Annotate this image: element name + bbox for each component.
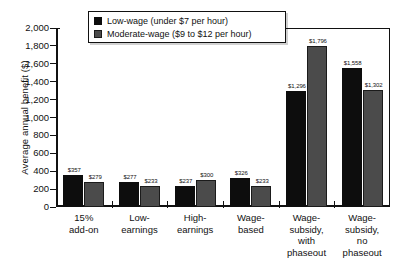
bar-mod-wage bbox=[196, 180, 216, 207]
bar-mod-wage bbox=[363, 90, 383, 207]
y-axis-tick-label: 1,400 bbox=[1, 77, 49, 86]
x-axis-category-line: subsidy, bbox=[279, 224, 335, 236]
y-axis-tick-label: 1,000 bbox=[1, 113, 49, 122]
x-axis-separator-tick bbox=[223, 201, 224, 208]
y-axis-tick-label: 1,600 bbox=[1, 59, 49, 68]
y-axis-tick-label: 1,200 bbox=[1, 95, 49, 104]
x-axis-separator-tick bbox=[112, 201, 113, 208]
bar-low-wage bbox=[63, 175, 83, 207]
x-axis-separator-tick bbox=[279, 201, 280, 208]
x-axis-category-line: subsidy, bbox=[334, 224, 390, 236]
bar-value-label: $300 bbox=[194, 172, 220, 178]
y-axis-tick bbox=[50, 99, 56, 100]
bar-low-wage bbox=[286, 91, 306, 207]
y-axis-tick bbox=[50, 117, 56, 118]
x-axis-category-label: Wage-subsidy,withphaseout bbox=[279, 212, 335, 258]
bar-low-wage bbox=[342, 68, 362, 207]
y-axis-tick bbox=[50, 135, 56, 136]
bar-low-wage bbox=[119, 182, 139, 207]
plot-area bbox=[56, 28, 390, 207]
bar-value-label: $1,558 bbox=[340, 60, 366, 66]
bar-value-label: $326 bbox=[228, 170, 254, 176]
bar-mod-wage bbox=[140, 186, 160, 207]
bar-mod-wage bbox=[251, 186, 271, 207]
x-axis-category-line: Low- bbox=[112, 212, 168, 224]
chart-legend: Low-wage (under $7 per hour) Moderate-wa… bbox=[88, 11, 286, 43]
y-axis-tick-label: 400 bbox=[1, 166, 49, 175]
x-axis-category-line: earnings bbox=[112, 224, 168, 236]
bar-value-label: $357 bbox=[61, 167, 87, 173]
x-axis-category-label: Wage-based bbox=[223, 212, 279, 235]
bar-value-label: $233 bbox=[138, 178, 164, 184]
bar-value-label: $279 bbox=[82, 174, 108, 180]
y-axis-tick-label: 1,800 bbox=[1, 41, 49, 50]
x-axis-category-line: phaseout bbox=[279, 247, 335, 259]
x-axis-category-line: with bbox=[279, 235, 335, 247]
bar-value-label: $233 bbox=[249, 178, 275, 184]
y-axis-tick-label: 0 bbox=[1, 202, 49, 211]
x-axis-category-line: Wage- bbox=[223, 212, 279, 224]
x-axis-category-line: phaseout bbox=[334, 247, 390, 259]
x-axis-category-label: Low-earnings bbox=[112, 212, 168, 235]
x-axis-category-line: 15% bbox=[56, 212, 112, 224]
bar-low-wage bbox=[230, 178, 250, 207]
y-axis-tick bbox=[50, 189, 56, 190]
y-axis-tick bbox=[50, 81, 56, 82]
y-axis-tick bbox=[50, 28, 56, 29]
y-axis-tick-label: 800 bbox=[1, 130, 49, 139]
x-axis-category-line: add-on bbox=[56, 224, 112, 236]
legend-swatch-icon-low-wage bbox=[94, 17, 102, 25]
x-axis-category-line: based bbox=[223, 224, 279, 236]
legend-label-low-wage: Low-wage (under $7 per hour) bbox=[107, 16, 228, 26]
x-axis-category-line: Wage- bbox=[334, 212, 390, 224]
bar-value-label: $1,796 bbox=[305, 38, 331, 44]
bar-mod-wage bbox=[84, 182, 104, 207]
y-axis-tick-label: 2,000 bbox=[1, 23, 49, 32]
bar-chart-figure: Average annual benefit ($) 2,0001,8001,6… bbox=[0, 0, 401, 276]
x-axis-category-line: earnings bbox=[167, 224, 223, 236]
legend-item-moderate-wage: Moderate-wage ($9 to $12 per hour) bbox=[94, 28, 281, 40]
x-axis-category-line: Wage- bbox=[279, 212, 335, 224]
y-axis-tick bbox=[50, 63, 56, 64]
bar-value-label: $1,302 bbox=[361, 82, 387, 88]
x-axis-category-label: Wage-subsidy,nophaseout bbox=[334, 212, 390, 258]
x-axis-category-line: High- bbox=[167, 212, 223, 224]
legend-swatch-icon-moderate-wage bbox=[94, 30, 102, 38]
y-axis-tick-label: 200 bbox=[1, 184, 49, 193]
x-axis-category-label: High-earnings bbox=[167, 212, 223, 235]
x-axis-category-label: 15%add-on bbox=[56, 212, 112, 235]
legend-item-low-wage: Low-wage (under $7 per hour) bbox=[94, 15, 281, 27]
bar-mod-wage bbox=[307, 46, 327, 207]
legend-label-moderate-wage: Moderate-wage ($9 to $12 per hour) bbox=[107, 29, 252, 39]
y-axis-tick bbox=[50, 207, 56, 208]
bar-low-wage bbox=[175, 186, 195, 207]
y-axis-tick bbox=[50, 45, 56, 46]
y-axis-tick-label: 600 bbox=[1, 148, 49, 157]
x-axis-category-line: no bbox=[334, 235, 390, 247]
y-axis-tick bbox=[50, 153, 56, 154]
x-axis-separator-tick bbox=[167, 201, 168, 208]
y-axis-tick bbox=[50, 171, 56, 172]
x-axis-separator-tick bbox=[334, 201, 335, 208]
